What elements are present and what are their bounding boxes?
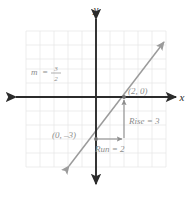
point-x-intercept	[122, 95, 126, 99]
label-run: Run = 2	[94, 144, 125, 154]
label-rise: Rise = 3	[128, 116, 160, 126]
graph-figure: x y m = 3 2 (2, 0) (0, –3) Rise = 3 Run …	[0, 0, 193, 198]
label-point-0-neg3: (0, –3)	[52, 130, 76, 140]
coordinate-plane-svg: x y m = 3 2 (2, 0) (0, –3) Rise = 3 Run …	[0, 0, 193, 198]
label-point-2-0: (2, 0)	[128, 86, 148, 96]
point-y-intercept	[94, 137, 98, 141]
x-axis-label: x	[179, 91, 185, 103]
slope-annotation: m = 3 2	[31, 65, 61, 83]
slope-denominator: 2	[54, 75, 58, 83]
slope-variable-m: m	[31, 67, 38, 77]
slope-numerator: 3	[53, 65, 58, 73]
y-axis-label: y	[93, 3, 99, 15]
slope-equals-sign: =	[42, 67, 48, 77]
